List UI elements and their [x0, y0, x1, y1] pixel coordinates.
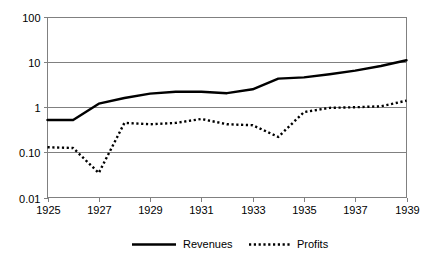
x-tick-label: 1925	[36, 204, 60, 216]
x-tick-label: 1937	[343, 204, 367, 216]
x-tick-label: 1929	[138, 204, 162, 216]
x-tick-label: 1933	[241, 204, 265, 216]
x-tick-label: 1935	[292, 204, 316, 216]
y-tick-label: 0.10	[19, 147, 40, 159]
x-tick-label: 1927	[87, 204, 111, 216]
x-tick-label: 1931	[189, 204, 213, 216]
y-tick-label: 1	[34, 102, 40, 114]
x-tick-label: 1939	[395, 204, 419, 216]
chart-background	[0, 0, 423, 264]
y-tick-label: 100	[22, 12, 40, 24]
legend-label-profits: Profits	[297, 238, 329, 250]
line-chart: 1001010.100.01 1925192719291931193319351…	[0, 0, 423, 264]
chart-container: 1001010.100.01 1925192719291931193319351…	[0, 0, 423, 264]
legend-label-revenues: Revenues	[183, 238, 233, 250]
y-tick-label: 10	[28, 57, 40, 69]
